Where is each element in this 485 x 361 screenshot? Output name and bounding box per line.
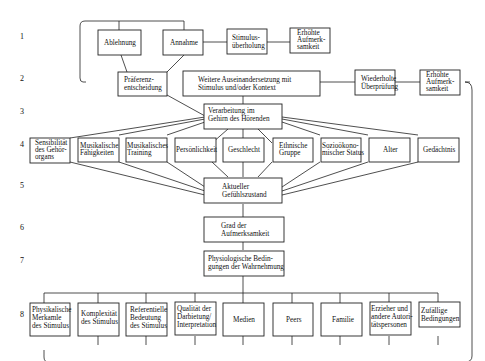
svg-text:Referentielle: Referentielle (130, 306, 167, 314)
row-number-1: 1 (20, 32, 24, 41)
svg-text:Persönlichkeit: Persönlichkeit (176, 146, 217, 154)
node-zufaellige-bedingungen: Zufällige Bedingungen (419, 302, 460, 327)
svg-text:Alter: Alter (383, 146, 398, 154)
svg-text:Gedächtnis: Gedächtnis (423, 146, 456, 154)
svg-text:Familie: Familie (332, 316, 354, 324)
node-familie: Familie (321, 303, 362, 336)
svg-text:des Stimulus: des Stimulus (32, 322, 69, 330)
row-number-7: 7 (20, 256, 24, 265)
svg-text:Gefühlszustand: Gefühlszustand (222, 191, 267, 199)
svg-text:Physikalische: Physikalische (32, 306, 72, 314)
svg-text:organs: organs (35, 153, 54, 161)
row-numbers: 1 2 3 4 5 6 7 8 (20, 32, 24, 319)
row-number-5: 5 (20, 181, 24, 190)
row-number-4: 4 (20, 140, 24, 149)
svg-text:Zufällige: Zufällige (421, 307, 447, 315)
svg-text:Interpretation: Interpretation (177, 321, 217, 329)
svg-text:Physiologische Bedin-: Physiologische Bedin- (208, 255, 273, 263)
svg-text:Peers: Peers (286, 316, 302, 324)
svg-text:Geschlecht: Geschlecht (228, 146, 260, 154)
row-number-2: 2 (20, 74, 24, 83)
node-ethnische-gruppe: Ethnische Gruppe (273, 138, 313, 162)
node-weitere-auseinandersetzung: Weitere Auseinandersetzung mit Stimulus … (183, 71, 320, 96)
svg-text:Annahme: Annahme (170, 39, 198, 47)
node-qualitaet-darbietung: Qualität der Darbietung/ Interpretation (175, 302, 217, 335)
svg-text:Präferenz-: Präferenz- (124, 76, 155, 84)
row-number-6: 6 (20, 223, 24, 232)
node-physikalische-merkmale: Physikalische Merkamle des Stimulus (30, 303, 72, 336)
svg-text:Aufmerksamkeit: Aufmerksamkeit (221, 230, 269, 238)
row-number-3: 3 (20, 107, 24, 116)
svg-text:Qualität der: Qualität der (177, 305, 212, 313)
svg-text:gungen der Wahrnehmung: gungen der Wahrnehmung (208, 263, 284, 271)
node-komplexitaet: Komplexität des Stimulus (78, 303, 119, 336)
svg-text:Gruppe: Gruppe (279, 149, 301, 157)
svg-text:des Stimulus: des Stimulus (130, 322, 167, 330)
svg-text:Gehirn des Hörenden: Gehirn des Hörenden (208, 115, 270, 123)
svg-text:Darbietung/: Darbietung/ (177, 313, 211, 321)
svg-text:samkeit: samkeit (426, 85, 448, 93)
svg-text:Stimulus und/oder Kontext: Stimulus und/oder Kontext (198, 84, 276, 92)
node-peers: Peers (273, 303, 313, 336)
node-sensibilitaet: Sensibilität des Gehör- organs (30, 138, 70, 163)
svg-text:überholung: überholung (232, 42, 265, 50)
svg-text:Training: Training (127, 149, 152, 157)
row-number-8: 8 (20, 310, 24, 319)
node-musikalisches-training: Musikalisches Training (126, 138, 168, 162)
node-annahme: Annahme (163, 30, 203, 55)
node-stimulusueberholung: Stimulus- überholung (227, 29, 267, 54)
node-wiederholte-ueberpruefung: Wiederholte Überprüfung (355, 70, 399, 95)
node-physiologische-bedingungen: Physiologische Bedin- gungen der Wahrneh… (204, 251, 284, 276)
svg-text:Stimulus-: Stimulus- (232, 34, 261, 42)
node-referentielle-bedeutung: Referentielle Bedeutung des Stimulus (126, 303, 167, 336)
svg-text:Komplexität: Komplexität (81, 310, 117, 318)
node-medien: Medien (223, 303, 264, 336)
node-erhoehte-aufmerksamkeit-2: Erhöhte Aufmerk- samkeit (420, 70, 460, 95)
svg-text:Weitere Auseinandersetzung mit: Weitere Auseinandersetzung mit (198, 76, 291, 84)
svg-text:Erzieher und: Erzieher und (371, 305, 408, 313)
node-persoenlichkeit: Persönlichkeit (175, 138, 217, 162)
node-erhoehte-aufmerksamkeit-1: Erhöhte Aufmerk- samkeit (290, 28, 330, 53)
node-aktueller-gefuehlszustand: Aktueller Gefühlszustand (204, 178, 282, 203)
node-soziooekonomischer-status: Sozioökono- mischer Status (321, 138, 364, 162)
svg-text:Bedingungen: Bedingungen (421, 315, 460, 323)
svg-text:Medien: Medien (233, 316, 255, 324)
svg-text:Bedeutung: Bedeutung (130, 314, 162, 322)
node-gedaechtnis: Gedächtnis (418, 138, 459, 162)
svg-text:entscheidung: entscheidung (124, 84, 162, 92)
svg-text:samkeit: samkeit (297, 43, 319, 51)
node-alter: Alter (369, 138, 410, 162)
svg-text:des Stimulus: des Stimulus (81, 318, 118, 326)
music-preference-diagram: 1 2 3 4 5 6 7 8 (0, 0, 485, 361)
node-ablehnung: Ablehnung (98, 30, 141, 55)
node-musikalische-faehigkeiten: Musikalische Fähigkeiten (78, 138, 119, 162)
svg-text:Verarbeitung im: Verarbeitung im (208, 107, 255, 115)
svg-text:Fähigkeiten: Fähigkeiten (80, 149, 114, 157)
svg-text:andere Autori-: andere Autori- (371, 313, 413, 321)
node-erzieher: Erzieher und andere Autori- tätspersonen (370, 302, 413, 335)
svg-text:mischer Status: mischer Status (322, 149, 364, 157)
svg-text:tätspersonen: tätspersonen (371, 321, 407, 329)
svg-text:Aktueller: Aktueller (222, 183, 250, 191)
node-geschlecht: Geschlecht (223, 138, 264, 162)
svg-text:Wiederholte: Wiederholte (361, 75, 396, 83)
svg-text:Grad der: Grad der (221, 222, 247, 230)
node-praeferenzentscheidung: Präferenz- entscheidung (118, 72, 167, 96)
node-grad-der-aufmerksamkeit: Grad der Aufmerksamkeit (204, 217, 284, 242)
svg-text:Ablehnung: Ablehnung (104, 39, 136, 47)
svg-text:Überprüfung: Überprüfung (361, 82, 399, 91)
node-verarbeitung: Verarbeitung im Gehirn des Hörenden (204, 104, 282, 129)
svg-text:Merkamle: Merkamle (32, 314, 62, 322)
